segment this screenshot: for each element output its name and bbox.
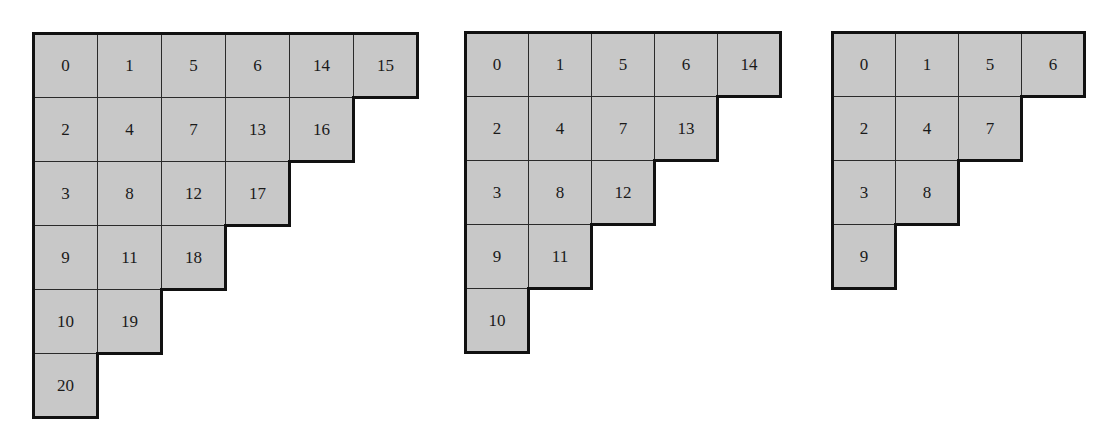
grid-cell: 7 (161, 97, 226, 162)
outline-edge (224, 224, 291, 227)
grid-cell: 10 (465, 288, 529, 353)
outline-edge (288, 160, 355, 163)
grid-cell: 15 (353, 33, 418, 98)
outline-edge (1083, 31, 1086, 98)
outline-edge (224, 224, 227, 291)
grid-cell: 2 (33, 97, 98, 162)
grid-cell: 4 (97, 97, 162, 162)
grid-cell: 0 (832, 32, 896, 97)
outline-edge (160, 288, 163, 355)
outline-edge (653, 159, 719, 162)
outline-edge (352, 96, 355, 163)
grid-cell: 12 (591, 160, 655, 225)
outline-edge (1020, 95, 1023, 162)
grid-cell: 14 (289, 33, 354, 98)
grid-cell: 0 (465, 32, 529, 97)
outline-edge (416, 32, 419, 99)
grid-cell: 5 (161, 33, 226, 98)
grid-cell: 7 (958, 96, 1022, 161)
outline-edge (32, 32, 419, 35)
grid-cell: 9 (33, 225, 98, 290)
outline-edge (716, 95, 719, 162)
outline-edge (957, 159, 960, 226)
outline-edge (716, 95, 782, 98)
outline-edge (464, 31, 467, 354)
outline-edge (590, 223, 593, 290)
grid-cell: 13 (225, 97, 290, 162)
grid-cell: 16 (289, 97, 354, 162)
grid-cell: 6 (225, 33, 290, 98)
grid-cell: 7 (591, 96, 655, 161)
grid-cell: 2 (465, 96, 529, 161)
grid-cell: 3 (832, 160, 896, 225)
grid-cell: 5 (958, 32, 1022, 97)
outline-edge (527, 287, 593, 290)
outline-edge (32, 32, 35, 419)
grid-cell: 3 (465, 160, 529, 225)
grid-cell: 14 (717, 32, 781, 97)
outline-edge (464, 31, 782, 34)
grid-cell: 19 (97, 289, 162, 354)
grid-cell: 1 (97, 33, 162, 98)
grid-cell: 0 (33, 33, 98, 98)
grid-cell: 6 (1021, 32, 1085, 97)
grid-cell: 3 (33, 161, 98, 226)
grid-cell: 4 (895, 96, 959, 161)
outline-edge (831, 287, 897, 290)
outline-edge (894, 223, 960, 226)
outline-edge (464, 351, 530, 354)
outline-edge (831, 31, 834, 290)
grid-cell: 5 (591, 32, 655, 97)
grid-cell: 18 (161, 225, 226, 290)
grid-cell: 12 (161, 161, 226, 226)
grid-cell: 13 (654, 96, 718, 161)
outline-edge (1020, 95, 1086, 98)
outline-edge (96, 352, 99, 419)
grid-cell: 6 (654, 32, 718, 97)
outline-edge (352, 96, 419, 99)
grid-cell: 8 (97, 161, 162, 226)
grid-cell: 1 (528, 32, 592, 97)
grid-cell: 20 (33, 353, 98, 418)
outline-edge (779, 31, 782, 98)
grid-cell: 8 (528, 160, 592, 225)
grid-cell: 11 (97, 225, 162, 290)
grid-cell: 2 (832, 96, 896, 161)
outline-edge (32, 416, 99, 419)
outline-edge (590, 223, 656, 226)
outline-edge (288, 160, 291, 227)
outline-edge (653, 159, 656, 226)
outline-edge (894, 223, 897, 290)
grid-cell: 4 (528, 96, 592, 161)
grid-cell: 11 (528, 224, 592, 289)
grid-cell: 8 (895, 160, 959, 225)
outline-edge (957, 159, 1023, 162)
grid-cell: 1 (895, 32, 959, 97)
outline-edge (527, 287, 530, 354)
grid-cell: 17 (225, 161, 290, 226)
grid-cell: 9 (832, 224, 896, 289)
grid-cell: 10 (33, 289, 98, 354)
outline-edge (160, 288, 227, 291)
grid-cell: 9 (465, 224, 529, 289)
outline-edge (96, 352, 163, 355)
outline-edge (831, 31, 1086, 34)
